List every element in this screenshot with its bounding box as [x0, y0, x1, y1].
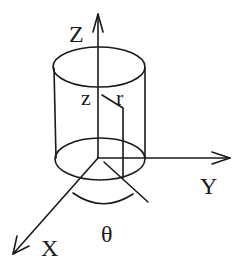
theta-arc	[73, 193, 133, 204]
z-axis-label: Z	[69, 21, 84, 47]
x-axis-label: X	[41, 235, 58, 261]
r-coordinate-label: r	[116, 85, 124, 110]
cylinder-bottom-ellipse	[55, 138, 145, 180]
y-axis-label: Y	[200, 173, 217, 199]
theta-label: θ	[101, 221, 113, 247]
cylinder-top-ellipse	[53, 47, 145, 87]
cylindrical-coordinates-diagram: Z z r Y X θ	[0, 0, 243, 261]
cylinder-left-side	[54, 68, 56, 158]
z-coordinate-label: z	[81, 85, 91, 110]
